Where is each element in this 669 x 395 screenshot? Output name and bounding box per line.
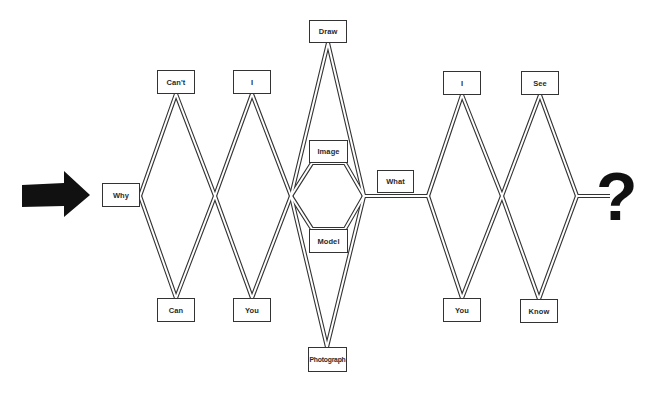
node-model: Model: [309, 229, 348, 253]
connector-lines: [0, 0, 669, 395]
word-flow-diagram: Why Can't Can I You Draw Image Model Pho…: [0, 0, 669, 395]
node-photograph: Photograph: [308, 347, 347, 372]
node-know: Know: [520, 299, 558, 323]
node-cant: Can't: [157, 70, 195, 94]
question-mark-icon: ?: [596, 162, 638, 230]
right-arrow-icon: [20, 171, 100, 221]
node-you-left: You: [233, 298, 271, 322]
node-you-right: You: [443, 298, 481, 322]
node-see: See: [521, 71, 559, 95]
node-why: Why: [102, 183, 140, 207]
node-can: Can: [157, 298, 195, 322]
node-image: Image: [309, 140, 348, 163]
node-i-right: I: [443, 71, 481, 95]
node-draw: Draw: [309, 20, 347, 43]
node-what: What: [377, 170, 414, 193]
node-i-left: I: [233, 70, 271, 94]
